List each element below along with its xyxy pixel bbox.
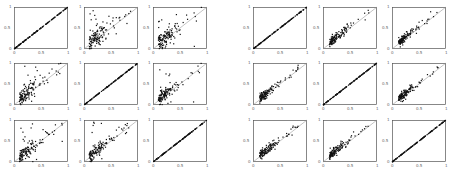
x-tick-label: 1: [206, 107, 209, 111]
y-tick-label: 1: [79, 5, 82, 9]
y-tick-label: 0.5: [143, 139, 149, 143]
y-tick-label: 0: [387, 160, 390, 164]
scatter-panel-right-r3c1: 00.5110.50: [253, 120, 307, 162]
y-tick-label: 1: [9, 118, 12, 122]
x-tick-label: 1: [376, 51, 379, 55]
y-tick-label: 0.5: [143, 26, 149, 30]
x-tick-label: 1: [67, 164, 70, 168]
x-tick-label: 0: [152, 51, 155, 55]
x-tick-label: 0: [152, 107, 155, 111]
x-tick-label: 1: [67, 107, 70, 111]
y-tick-label: 1: [79, 61, 82, 65]
y-tick-label: 1: [318, 118, 321, 122]
y-tick-label: 0.5: [382, 139, 388, 143]
scatter-panel-left-r1c2: 00.5110.50: [84, 7, 138, 49]
y-tick-label: 0: [9, 47, 12, 51]
y-tick-label: 0.5: [313, 26, 319, 30]
x-tick-label: 0.5: [108, 51, 114, 55]
y-tick-label: 0.5: [74, 139, 80, 143]
x-tick-label: 0: [391, 51, 394, 55]
y-tick-label: 0.5: [382, 82, 388, 86]
x-tick-label: 0: [252, 51, 255, 55]
y-tick-label: 0: [148, 47, 151, 51]
x-tick-label: 0: [322, 51, 325, 55]
x-tick-label: 1: [206, 51, 209, 55]
x-tick-label: 0.5: [416, 107, 422, 111]
y-tick-label: 1: [148, 61, 151, 65]
scatter-panel-left-r3c2: 00.5110.50: [84, 120, 138, 162]
y-tick-label: 0.5: [382, 26, 388, 30]
x-tick-label: 0: [152, 164, 155, 168]
scatter-panel-right-r3c3: 00.5110.50: [392, 120, 446, 162]
x-tick-label: 0: [13, 51, 16, 55]
x-tick-label: 0.5: [177, 107, 183, 111]
scatter-panel-right-r1c1: 00.5110.50: [253, 7, 307, 49]
y-tick-label: 0: [318, 47, 321, 51]
x-tick-label: 1: [206, 164, 209, 168]
x-tick-label: 0.5: [416, 164, 422, 168]
y-tick-label: 0: [248, 103, 251, 107]
x-tick-label: 0: [13, 107, 16, 111]
scatter-panel-right-r2c2: 00.5110.50: [323, 63, 377, 105]
y-tick-label: 1: [248, 118, 251, 122]
y-tick-label: 0: [148, 160, 151, 164]
y-tick-label: 0: [9, 160, 12, 164]
x-tick-label: 0: [252, 107, 255, 111]
x-tick-label: 0.5: [108, 107, 114, 111]
x-tick-label: 0: [13, 164, 16, 168]
x-tick-label: 0.5: [177, 51, 183, 55]
x-tick-label: 1: [445, 107, 448, 111]
y-tick-label: 1: [9, 5, 12, 9]
x-tick-label: 0: [391, 164, 394, 168]
y-tick-label: 0: [79, 160, 82, 164]
x-tick-label: 1: [137, 107, 140, 111]
y-tick-label: 1: [248, 5, 251, 9]
scatter-panel-right-r2c1: 00.5110.50: [253, 63, 307, 105]
x-tick-label: 0.5: [347, 107, 353, 111]
x-tick-label: 0.5: [347, 51, 353, 55]
y-tick-label: 1: [387, 61, 390, 65]
x-tick-label: 1: [67, 51, 70, 55]
scatter-panel-left-r1c1: 00.5110.50: [14, 7, 68, 49]
y-tick-label: 0: [318, 103, 321, 107]
y-tick-label: 0: [387, 103, 390, 107]
y-tick-label: 1: [318, 5, 321, 9]
x-tick-label: 0.5: [347, 164, 353, 168]
y-tick-label: 1: [148, 118, 151, 122]
scatter-panel-left-r2c1: 00.5110.50: [14, 63, 68, 105]
x-tick-label: 0: [252, 164, 255, 168]
y-tick-label: 1: [148, 5, 151, 9]
y-tick-label: 0.5: [243, 82, 249, 86]
y-tick-label: 0: [79, 103, 82, 107]
y-tick-label: 0.5: [243, 139, 249, 143]
x-tick-label: 1: [137, 164, 140, 168]
x-tick-label: 0.5: [38, 107, 44, 111]
scatter-panel-left-r3c1: 00.5110.50: [14, 120, 68, 162]
x-tick-label: 1: [137, 51, 140, 55]
scatter-panel-left-r2c3: 00.5110.50: [153, 63, 207, 105]
x-tick-label: 0.5: [416, 51, 422, 55]
x-tick-label: 1: [445, 51, 448, 55]
y-tick-label: 0.5: [313, 82, 319, 86]
y-tick-label: 0.5: [313, 139, 319, 143]
x-tick-label: 0: [322, 164, 325, 168]
x-tick-label: 0.5: [177, 164, 183, 168]
y-tick-label: 0: [318, 160, 321, 164]
y-tick-label: 1: [387, 5, 390, 9]
x-tick-label: 1: [306, 164, 309, 168]
y-tick-label: 1: [248, 61, 251, 65]
y-tick-label: 1: [318, 61, 321, 65]
scatter-panel-right-r1c3: 00.5110.50: [392, 7, 446, 49]
scatter-panel-left-r2c2: 00.5110.50: [84, 63, 138, 105]
x-tick-label: 0.5: [277, 51, 283, 55]
scatter-panel-right-r3c2: 00.5110.50: [323, 120, 377, 162]
y-tick-label: 1: [79, 118, 82, 122]
y-tick-label: 0.5: [74, 82, 80, 86]
y-tick-label: 0.5: [4, 139, 10, 143]
x-tick-label: 0: [322, 107, 325, 111]
y-tick-label: 0: [9, 103, 12, 107]
x-tick-label: 0.5: [108, 164, 114, 168]
x-tick-label: 0.5: [277, 107, 283, 111]
y-tick-label: 0.5: [143, 82, 149, 86]
scatter-panel-left-r3c3: 00.5110.50: [153, 120, 207, 162]
